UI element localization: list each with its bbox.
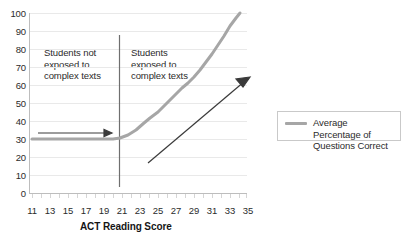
chart-container: 100 90 80 70 60 50 40 30 20 10 0 11 13 1…: [0, 0, 411, 240]
rising-trend-arrow: [148, 77, 250, 163]
flat-trend-arrow: [38, 130, 112, 137]
gridlines: [29, 14, 247, 176]
x-axis-ticks: [33, 194, 247, 198]
plot-graphics: [0, 0, 411, 240]
